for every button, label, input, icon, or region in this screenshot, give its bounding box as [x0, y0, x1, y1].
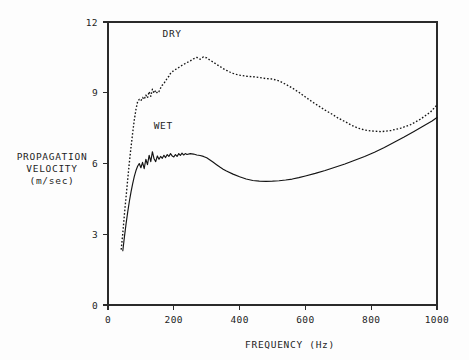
x-tick-label: 0: [105, 314, 111, 325]
x-tick-label: 400: [230, 314, 248, 325]
series-annotation-dry: DRY: [163, 28, 182, 39]
x-tick-label: 200: [165, 314, 183, 325]
x-axis-title: FREQUENCY (Hz): [245, 339, 335, 350]
chart-figure: 036912 02004006008001000 PROPAGATION VEL…: [0, 0, 469, 360]
y-tick-label: 6: [92, 158, 98, 169]
y-tick-label: 3: [92, 229, 98, 240]
x-tick-label: 1000: [425, 314, 449, 325]
x-tick-label: 800: [362, 314, 380, 325]
y-tick-label: 0: [92, 300, 98, 311]
y-axis-title-line-2: VELOCITY: [26, 163, 77, 174]
y-tick-label: 12: [86, 17, 98, 28]
chart-canvas: 036912 02004006008001000 PROPAGATION VEL…: [0, 0, 469, 360]
y-axis-title-line-1: PROPAGATION: [17, 151, 88, 162]
series-annotation-wet: WET: [154, 120, 173, 131]
y-axis-title-line-3: (m/sec): [30, 175, 75, 186]
y-tick-label: 9: [92, 87, 98, 98]
x-tick-label: 600: [296, 314, 314, 325]
